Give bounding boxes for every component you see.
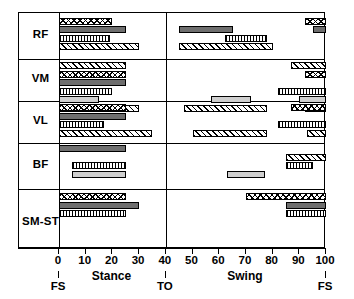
row-label-vm: VM: [19, 72, 62, 84]
row-divider-2: [19, 143, 324, 144]
tick-label-70: 70: [238, 254, 251, 266]
bar-rf-dark-1: [179, 26, 232, 33]
bar-vl-vert-1: [278, 121, 326, 128]
tick-label-40: 40: [158, 254, 171, 266]
tick-label-50: 50: [185, 254, 198, 266]
bar-bf-vert-1: [286, 162, 313, 169]
bar-vm-vert-0: [59, 88, 112, 95]
bar-vm-dark-0: [59, 79, 126, 86]
bar-vl-cross-1: [291, 104, 326, 111]
bar-rf-cross-0: [59, 18, 112, 25]
tick-label-10: 10: [78, 254, 91, 266]
bar-sm-st-dark-0: [59, 202, 139, 209]
emg-timing-chart: RFVMVLBFSM-ST 0102030405060708090100 FST…: [0, 0, 354, 299]
bar-rf-diag-1: [179, 43, 272, 50]
bar-vl-diag-2: [307, 130, 326, 137]
bar-rf-dark-2: [313, 26, 326, 33]
bar-sm-st-cross-1: [246, 193, 326, 200]
bar-rf-diag-0: [59, 43, 139, 50]
bar-vl-cross-0: [59, 104, 126, 111]
row-divider-0: [19, 59, 324, 60]
tick-label-60: 60: [212, 254, 225, 266]
bar-bf-dark-0: [59, 145, 126, 152]
axis-line: [18, 248, 325, 249]
bar-bf-light-1: [227, 171, 264, 178]
bar-rf-vert-0: [59, 35, 110, 42]
bar-vm-diag-0: [59, 62, 126, 69]
tick-label-20: 20: [105, 254, 118, 266]
bar-bf-diag-0: [286, 154, 326, 161]
x-axis: 0102030405060708090100 FSTOFS StanceSwin…: [18, 248, 325, 299]
tick-label-30: 30: [132, 254, 145, 266]
vertical-line-0: [59, 13, 60, 249]
bar-sm-st-vert-1: [286, 210, 326, 217]
vertical-line-40: [166, 13, 167, 249]
tick-label-0: 0: [55, 254, 61, 266]
row-label-sm_st: SM-ST: [19, 215, 62, 227]
bar-vm-diag-1: [184, 105, 267, 112]
bar-vm-vert-1: [278, 88, 326, 95]
event-label-to-1: TO: [157, 280, 173, 292]
tick-label-90: 90: [292, 254, 305, 266]
tick-label-100: 100: [315, 254, 334, 266]
row-label-rf: RF: [19, 28, 62, 40]
bar-vm-diag-1: [291, 62, 326, 69]
event-label-fs-2: FS: [318, 280, 333, 292]
bar-vm-light-2: [299, 96, 326, 103]
row-label-vl: VL: [19, 114, 62, 126]
bar-sm-st-dark-1: [286, 202, 326, 209]
event-tick-fs-0: [58, 271, 59, 278]
bar-rf-dark-0: [59, 26, 126, 33]
plot-area: RFVMVLBFSM-ST: [18, 12, 325, 248]
bar-vm-light-1: [211, 96, 251, 103]
bar-rf-vert-1: [225, 35, 268, 42]
bar-vl-diag-1: [193, 130, 268, 137]
bar-rf-cross-1: [305, 18, 326, 25]
bar-sm-st-vert-0: [59, 210, 126, 217]
bar-vl-diag-0: [59, 130, 152, 137]
event-label-fs-0: FS: [51, 280, 66, 292]
row-divider-3: [19, 189, 324, 190]
bar-vl-vert-0: [59, 121, 104, 128]
bar-vm-light-0: [59, 96, 99, 103]
event-tick-to-1: [165, 271, 166, 278]
bar-vm-cross-0: [59, 71, 126, 78]
bar-vl-dark-0: [59, 113, 126, 120]
bar-sm-st-cross-0: [59, 193, 126, 200]
phase-label-swing: Swing: [227, 269, 262, 283]
bar-vm-cross-1: [305, 71, 326, 78]
row-label-bf: BF: [19, 158, 62, 170]
bar-bf-vert-0: [72, 162, 125, 169]
phase-label-stance: Stance: [92, 269, 131, 283]
bar-bf-light-0: [72, 171, 125, 178]
tick-label-80: 80: [265, 254, 278, 266]
event-tick-fs-2: [325, 271, 326, 278]
